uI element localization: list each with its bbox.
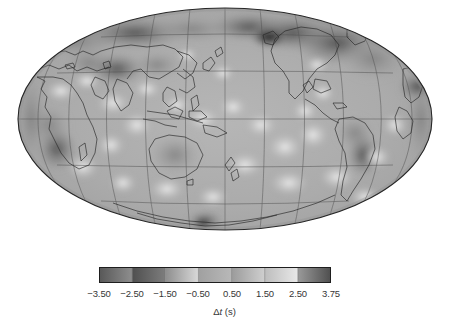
colorbar-tick-labels: −3.50 −2.50 −1.50 −0.50 0.50 1.50 2.50 3…	[63, 288, 373, 302]
colorbar-tick-label: 0.50	[223, 288, 241, 299]
colorbar-tick-label: 1.50	[256, 288, 274, 299]
units-seconds: (s)	[222, 306, 236, 317]
colorbar-gradient	[99, 267, 331, 283]
colorbar	[99, 267, 331, 283]
colorbar-tick-label: −2.50	[120, 288, 144, 299]
world-map-panel	[17, 7, 433, 231]
colorbar-tick-label: −0.50	[186, 288, 210, 299]
colorbar-tick-label: −3.50	[87, 288, 111, 299]
colorbar-tick-label: −1.50	[153, 288, 177, 299]
colorbar-tick-label: 3.75	[322, 288, 340, 299]
figure-canvas: −3.50 −2.50 −1.50 −0.50 0.50 1.50 2.50 3…	[0, 0, 449, 333]
world-map-image	[17, 7, 433, 231]
colorbar-tick-label: 2.50	[289, 288, 307, 299]
colorbar-axis-label: Δt (s)	[0, 306, 449, 317]
